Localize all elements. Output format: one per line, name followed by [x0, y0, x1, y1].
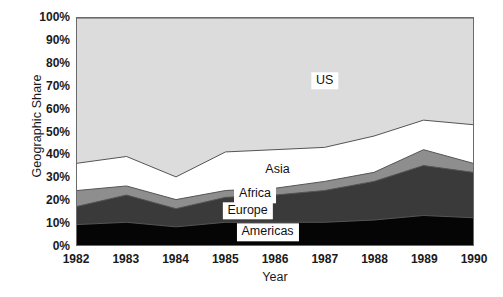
- x-axis-tick-label: 1987: [311, 252, 338, 266]
- x-axis-tick-label: 1989: [411, 252, 438, 266]
- x-axis-tick-label: 1985: [212, 252, 239, 266]
- y-axis-tick-label: 80%: [14, 57, 70, 69]
- y-axis-tick-label: 30%: [14, 171, 70, 183]
- y-axis-tick-label: 60%: [14, 103, 70, 115]
- y-axis-tick-label: 0%: [14, 240, 70, 252]
- series-label-africa: Africa: [234, 186, 276, 203]
- x-axis-group: Year 19821983198419851986198719881989199…: [76, 0, 474, 297]
- series-label-americas: Americas: [236, 224, 298, 241]
- x-axis-tick-label: 1984: [162, 252, 189, 266]
- y-axis-tick-label: 40%: [14, 148, 70, 160]
- y-axis-tick-label: 50%: [14, 126, 70, 138]
- x-axis-tick-label: 1986: [262, 252, 289, 266]
- y-axis-tick-label: 20%: [14, 194, 70, 206]
- x-axis-tick-label: 1982: [63, 252, 90, 266]
- stacked-area-chart: Geographic Share 0%10%20%30%40%50%60%70%…: [0, 0, 503, 297]
- x-axis-tick-label: 1988: [361, 252, 388, 266]
- y-axis-tick-label: 100%: [14, 11, 70, 23]
- y-axis-tick-labels: 0%10%20%30%40%50%60%70%80%90%100%: [8, 0, 70, 297]
- series-label-us: US: [311, 72, 338, 89]
- x-axis-title: Year: [76, 270, 474, 284]
- y-axis-tick-label: 10%: [14, 217, 70, 229]
- x-axis-tick-label: 1990: [461, 252, 488, 266]
- series-label-asia: Asia: [260, 162, 294, 179]
- y-axis-tick-label: 70%: [14, 80, 70, 92]
- x-axis-tick-label: 1983: [112, 252, 139, 266]
- y-axis-tick-label: 90%: [14, 34, 70, 46]
- series-label-europe: Europe: [222, 202, 272, 219]
